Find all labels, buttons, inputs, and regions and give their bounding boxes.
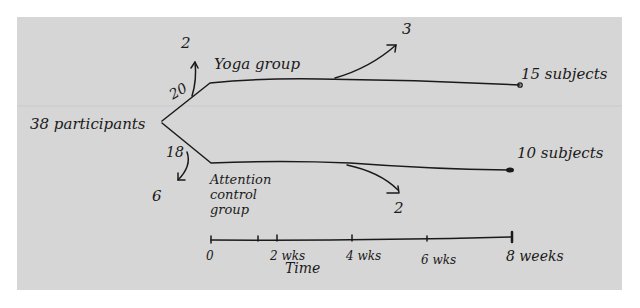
- branch-attention-line: [162, 123, 508, 170]
- branch-yoga-line: [162, 79, 520, 121]
- timeline-tick-4wks: 4 wks: [346, 249, 381, 263]
- attention-early-dropout-count: 6: [152, 189, 162, 204]
- timeline-tick-0: 0: [206, 249, 214, 263]
- attention-later-dropout-arrow: [347, 165, 398, 190]
- timeline-tick-8weeks: 8 weeks: [506, 248, 564, 264]
- timeline-axis: [211, 237, 512, 240]
- timeline-title: Time: [285, 261, 320, 275]
- yoga-group-label: Yoga group: [214, 57, 300, 72]
- yoga-later-dropout-arrow: [335, 45, 396, 78]
- yoga-later-dropout-count: 3: [402, 22, 412, 37]
- attention-completed-label: 10 subjects: [517, 146, 603, 161]
- attention-endpoint: [506, 168, 514, 173]
- timeline-tick-6wks: 6 wks: [421, 253, 456, 267]
- yoga-early-dropout-arrow: [192, 62, 196, 96]
- attention-group-label: Attention control group: [210, 172, 271, 217]
- participants-label: 38 participants: [30, 117, 146, 132]
- attention-allocated-count: 18: [166, 145, 184, 159]
- attention-later-dropout-count: 2: [394, 201, 404, 216]
- yoga-completed-label: 15 subjects: [521, 67, 607, 82]
- yoga-early-dropout-count: 2: [181, 36, 191, 51]
